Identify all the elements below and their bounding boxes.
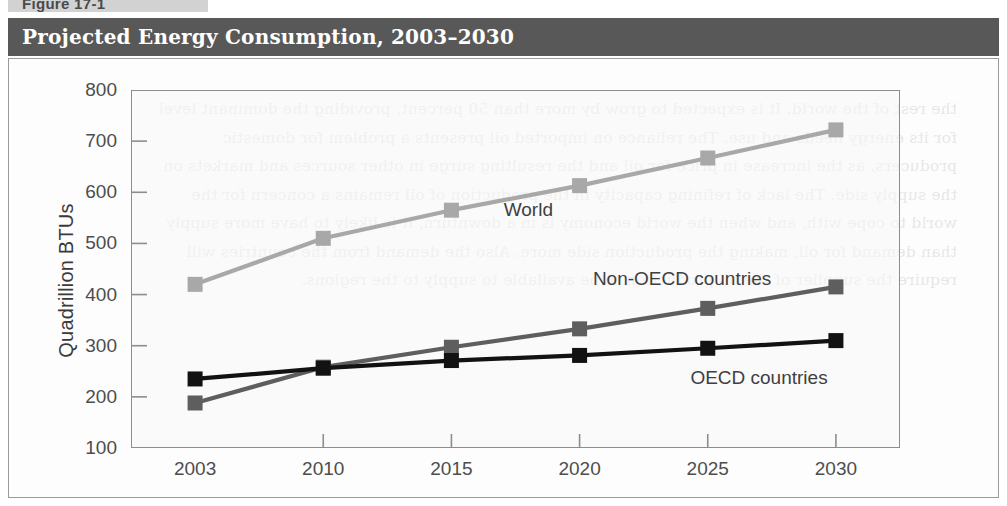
series-marker	[700, 301, 715, 316]
x-tick-label: 2010	[302, 458, 344, 480]
series-marker	[828, 122, 843, 137]
series-marker	[828, 279, 843, 294]
chart-series-layer	[9, 59, 999, 498]
series-marker	[188, 395, 203, 410]
series-marker	[444, 340, 459, 355]
x-tick-label: 2025	[687, 458, 729, 480]
series-marker	[700, 341, 715, 356]
figure-number-tab: Figure 17-1	[8, 0, 208, 12]
series-marker	[188, 277, 203, 292]
figure-title: Projected Energy Consumption, 2003–2030	[22, 25, 514, 49]
series-marker	[188, 371, 203, 386]
series-label: Non-OECD countries	[593, 268, 771, 290]
x-tick-label: 2015	[430, 458, 472, 480]
series-label: World	[504, 199, 553, 221]
figure-number-label: Figure 17-1	[22, 0, 105, 12]
figure-card: Figure 17-1 Projected Energy Consumption…	[0, 0, 1007, 506]
series-marker	[316, 361, 331, 376]
series-marker	[444, 203, 459, 218]
series-marker	[828, 333, 843, 348]
x-tick-label: 2030	[815, 458, 857, 480]
series-marker	[700, 151, 715, 166]
x-axis-tick-labels: 200320102015202020252030	[9, 458, 999, 488]
series-marker	[444, 353, 459, 368]
series-marker	[316, 231, 331, 246]
series-label: OECD countries	[690, 367, 827, 389]
series-marker	[572, 178, 587, 193]
series-marker	[572, 348, 587, 363]
chart-frame: the rest of the world. It is expected to…	[8, 58, 999, 498]
series-marker	[572, 321, 587, 336]
figure-title-bar: Projected Energy Consumption, 2003–2030	[8, 18, 999, 56]
x-tick-label: 2020	[558, 458, 600, 480]
x-tick-label: 2003	[174, 458, 216, 480]
